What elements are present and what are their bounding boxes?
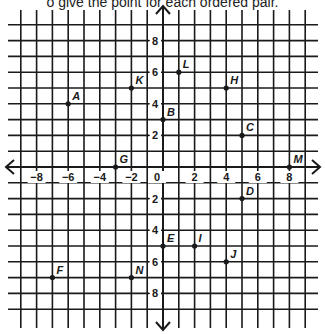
y-tick-label: 6 [152, 256, 158, 268]
y-tick-label: 4 [152, 98, 159, 110]
point-dot [287, 164, 292, 169]
point-dot [66, 101, 71, 106]
y-tick-label: 4 [152, 224, 159, 236]
point-label: L [183, 58, 190, 70]
x-tick-label: −8 [30, 171, 43, 183]
point-dot [224, 85, 229, 90]
x-tick-label: 0 [154, 171, 160, 183]
y-tick-label: 6 [152, 66, 158, 78]
point-dot [239, 196, 244, 201]
coordinate-plane: −8−6−4−20246886422468 ABCDEFGHIJKLMN [0, 0, 325, 334]
plotted-points: ABCDEFGHIJKLMN [50, 58, 304, 280]
point-dot [50, 275, 55, 280]
point-label: F [56, 264, 63, 276]
point-label: K [135, 74, 144, 86]
point-dot [129, 85, 134, 90]
x-tick-label: −2 [125, 171, 138, 183]
x-tick-label: 2 [192, 171, 198, 183]
point-label: M [293, 153, 303, 165]
point-dot [129, 275, 134, 280]
point-label: B [167, 106, 175, 118]
point-dot [160, 243, 165, 248]
point-label: A [71, 90, 80, 102]
point-label: J [230, 248, 237, 260]
point-dot [160, 117, 165, 122]
point-label: G [120, 153, 129, 165]
x-tick-label: 8 [286, 171, 292, 183]
point-label: I [199, 232, 203, 244]
x-tick-label: −6 [62, 171, 75, 183]
point-label: C [246, 121, 255, 133]
point-label: H [230, 74, 239, 86]
point-dot [239, 133, 244, 138]
y-tick-label: 8 [152, 287, 158, 299]
y-tick-label: 2 [152, 129, 158, 141]
point-label: E [167, 232, 175, 244]
x-tick-label: 4 [223, 171, 230, 183]
point-dot [192, 243, 197, 248]
y-tick-label: 2 [152, 193, 158, 205]
point-dot [224, 259, 229, 264]
point-label: N [135, 264, 144, 276]
x-tick-label: 6 [255, 171, 261, 183]
point-label: D [246, 185, 254, 197]
x-tick-label: −4 [94, 171, 107, 183]
point-dot [113, 164, 118, 169]
point-dot [176, 70, 181, 75]
y-tick-label: 8 [152, 35, 158, 47]
